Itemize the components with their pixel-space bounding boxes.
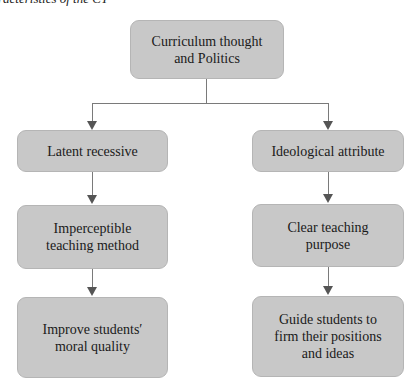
node-label-line-2: firm their positions [274,328,381,345]
node-label-line-3: and ideas [274,345,381,362]
node-guide-students: Guide students to firm their positions a… [252,296,404,377]
arrow-down-icon [87,287,97,296]
connector-right-down [328,103,329,123]
node-label-line-1: Improve students′ [43,321,143,338]
connector-left-2 [92,269,93,289]
arrow-down-icon [87,121,97,130]
node-imperceptible-teaching-method: Imperceptible teaching method [17,205,168,269]
node-clear-teaching-purpose: Clear teaching purpose [252,204,404,267]
node-label-line-1: Clear teaching [287,219,368,236]
node-latent-recessive: Latent recessive [17,130,168,172]
connector-left-1 [92,172,93,197]
node-label-line-2: purpose [287,236,368,253]
node-ideological-attribute: Ideological attribute [252,130,404,172]
node-label: Latent recessive [47,143,138,160]
arrow-down-icon [323,194,333,203]
node-label: Ideological attribute [271,143,384,160]
figure-caption: racteristics of the CT [0,0,108,7]
connector-left-down [92,103,93,123]
node-improve-moral-quality: Improve students′ moral quality [17,297,168,378]
node-label-line-2: teaching method [46,237,139,254]
connector-right-1 [328,172,329,196]
arrow-down-icon [323,121,333,130]
node-label-line-1: Imperceptible [46,220,139,237]
connector-root-down [206,79,207,103]
arrow-down-icon [87,195,97,204]
node-root-line-2: and Politics [152,50,263,67]
connector-right-2 [328,267,329,288]
arrow-down-icon [323,286,333,295]
node-label-line-2: moral quality [43,338,143,355]
node-root-line-1: Curriculum thought [152,33,263,50]
node-root: Curriculum thought and Politics [130,20,284,79]
connector-horizontal [92,103,329,104]
node-label-line-1: Guide students to [274,311,381,328]
